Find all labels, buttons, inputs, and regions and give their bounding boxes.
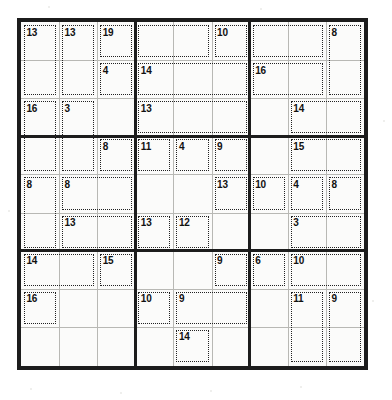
sudoku-cell[interactable]: [173, 327, 211, 365]
sudoku-cell[interactable]: [326, 136, 364, 174]
sudoku-cell[interactable]: [135, 251, 173, 289]
sudoku-cell[interactable]: [59, 289, 97, 327]
sudoku-cell[interactable]: [326, 327, 364, 365]
sudoku-cell[interactable]: [135, 174, 173, 212]
sudoku-cell[interactable]: [173, 98, 211, 136]
sudoku-cell[interactable]: [59, 22, 97, 60]
sudoku-cell[interactable]: [288, 98, 326, 136]
sudoku-cell[interactable]: [21, 289, 59, 327]
sudoku-cell[interactable]: [135, 22, 173, 60]
sudoku-cell[interactable]: [250, 60, 288, 98]
sudoku-cell[interactable]: [173, 60, 211, 98]
sudoku-cell[interactable]: [288, 289, 326, 327]
sudoku-cell[interactable]: [173, 174, 211, 212]
sudoku-cell[interactable]: [173, 289, 211, 327]
sudoku-cell[interactable]: [250, 251, 288, 289]
sudoku-cell[interactable]: [250, 174, 288, 212]
sudoku-cell[interactable]: [59, 98, 97, 136]
sudoku-cell[interactable]: [97, 174, 135, 212]
sudoku-cell[interactable]: [21, 327, 59, 365]
sudoku-cell[interactable]: [135, 213, 173, 251]
sudoku-cell[interactable]: [212, 174, 250, 212]
sudoku-cell[interactable]: [212, 251, 250, 289]
sudoku-cell[interactable]: [97, 251, 135, 289]
sudoku-cell[interactable]: [250, 22, 288, 60]
sudoku-cell[interactable]: [326, 98, 364, 136]
sudoku-cell[interactable]: [326, 251, 364, 289]
sudoku-cell[interactable]: [250, 213, 288, 251]
sudoku-cell[interactable]: [59, 60, 97, 98]
sudoku-cell[interactable]: [21, 60, 59, 98]
sudoku-cell[interactable]: [250, 136, 288, 174]
sudoku-cell[interactable]: [212, 213, 250, 251]
sudoku-cell[interactable]: [97, 22, 135, 60]
sudoku-cell[interactable]: [97, 98, 135, 136]
sudoku-cell[interactable]: [21, 251, 59, 289]
paper-speckle: [48, 6, 50, 8]
sudoku-cell[interactable]: [97, 213, 135, 251]
sudoku-cell[interactable]: [250, 327, 288, 365]
sudoku-cell[interactable]: [59, 327, 97, 365]
sudoku-cell[interactable]: [135, 327, 173, 365]
paper-speckle: [30, 388, 32, 390]
sudoku-cell[interactable]: [212, 22, 250, 60]
puzzle-page: 1313191084141616313148114915881310481313…: [0, 0, 392, 400]
sudoku-cell[interactable]: [97, 327, 135, 365]
paper-speckle: [8, 210, 10, 212]
sudoku-cell[interactable]: [326, 174, 364, 212]
sudoku-cell[interactable]: [135, 98, 173, 136]
sudoku-cell[interactable]: [21, 22, 59, 60]
sudoku-cell[interactable]: [173, 22, 211, 60]
sudoku-cell[interactable]: [288, 60, 326, 98]
sudoku-cell[interactable]: [212, 60, 250, 98]
sudoku-cell[interactable]: [212, 136, 250, 174]
sudoku-cell[interactable]: [288, 136, 326, 174]
paper-speckle: [210, 390, 212, 392]
sudoku-cell[interactable]: [59, 213, 97, 251]
sudoku-cell[interactable]: [173, 251, 211, 289]
sudoku-cell[interactable]: [212, 289, 250, 327]
paper-speckle: [383, 120, 385, 122]
sudoku-cell[interactable]: [21, 213, 59, 251]
sudoku-cell[interactable]: [288, 251, 326, 289]
sudoku-cell[interactable]: [97, 136, 135, 174]
paper-speckle: [300, 386, 302, 388]
paper-speckle: [260, 8, 262, 10]
grid-inner: 1313191084141616313148114915881310481313…: [21, 22, 364, 366]
sudoku-cell[interactable]: [97, 60, 135, 98]
sudoku-cell[interactable]: [288, 213, 326, 251]
sudoku-cell[interactable]: [212, 98, 250, 136]
sudoku-cell[interactable]: [288, 22, 326, 60]
sudoku-cell[interactable]: [212, 327, 250, 365]
sudoku-cell[interactable]: [135, 60, 173, 98]
sudoku-cell[interactable]: [288, 327, 326, 365]
sudoku-cell[interactable]: [326, 213, 364, 251]
sudoku-cell[interactable]: [135, 289, 173, 327]
sudoku-cell[interactable]: [173, 213, 211, 251]
sudoku-cell[interactable]: [326, 60, 364, 98]
sudoku-grid[interactable]: 1313191084141616313148114915881310481313…: [17, 18, 368, 370]
paper-speckle: [372, 300, 374, 302]
sudoku-cell[interactable]: [97, 289, 135, 327]
sudoku-cell[interactable]: [59, 174, 97, 212]
sudoku-cell[interactable]: [250, 98, 288, 136]
sudoku-cell[interactable]: [326, 289, 364, 327]
sudoku-cell[interactable]: [250, 289, 288, 327]
sudoku-cell[interactable]: [288, 174, 326, 212]
sudoku-cell[interactable]: [326, 22, 364, 60]
sudoku-cell[interactable]: [21, 98, 59, 136]
sudoku-cell[interactable]: [135, 136, 173, 174]
sudoku-cell[interactable]: [59, 251, 97, 289]
sudoku-cell[interactable]: [59, 136, 97, 174]
sudoku-cell[interactable]: [21, 174, 59, 212]
paper-speckle: [120, 392, 122, 394]
sudoku-cell[interactable]: [21, 136, 59, 174]
sudoku-cell[interactable]: [173, 136, 211, 174]
